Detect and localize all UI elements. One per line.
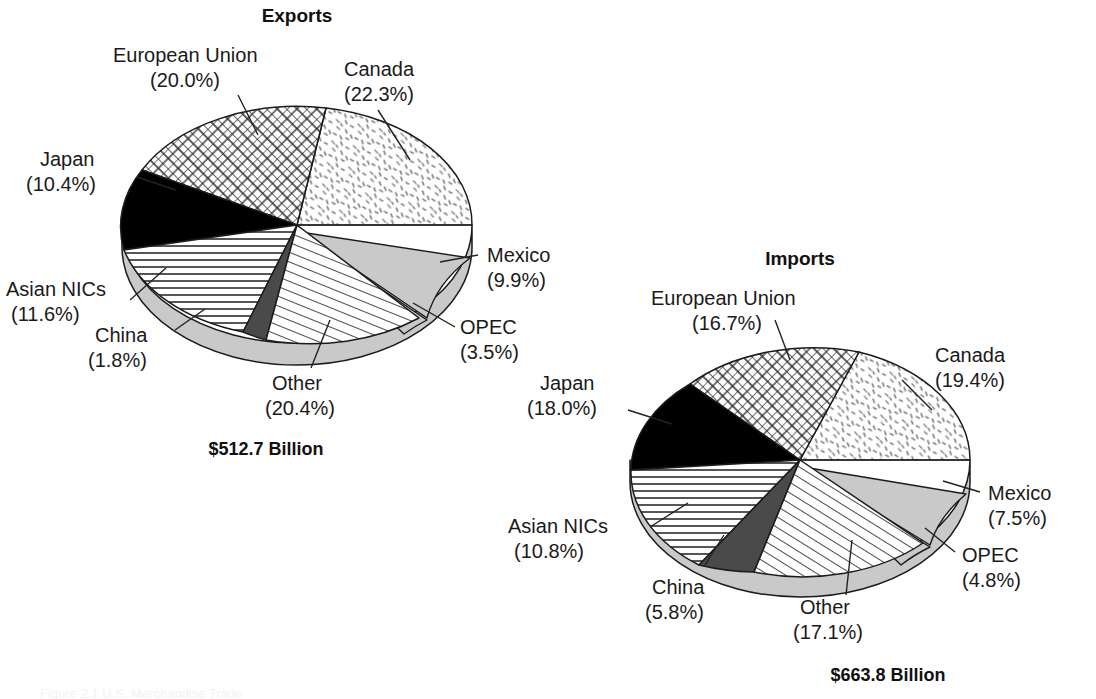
exports-canada-label: Canada bbox=[344, 58, 415, 80]
exports-total: $512.7 Billion bbox=[208, 439, 323, 459]
leader-mexico-2 bbox=[943, 481, 980, 492]
imports-japan-pct: (18.0%) bbox=[527, 397, 597, 419]
imports-japan-label: Japan bbox=[540, 372, 595, 394]
exports-canada-slice bbox=[297, 108, 472, 225]
imports-title: Imports bbox=[765, 248, 835, 269]
figure-canvas: Exports European Union (20.0%) Canada (2… bbox=[0, 0, 1096, 699]
exports-title: Exports bbox=[262, 5, 333, 26]
cropped-caption: Figure 2.1 U.S. Merchandise Trade bbox=[0, 687, 1096, 699]
imports-china-label: China bbox=[652, 576, 705, 598]
imports-canada-label: Canada bbox=[935, 344, 1006, 366]
exports-nics-pct: (11.6%) bbox=[11, 303, 80, 325]
imports-canada-pct: (19.4%) bbox=[935, 369, 1005, 391]
exports-china-label: China bbox=[95, 324, 148, 346]
imports-other-label: Other bbox=[800, 596, 850, 618]
exports-japan-pct: (10.4%) bbox=[26, 173, 96, 195]
imports-eu-pct: (16.7%) bbox=[692, 312, 762, 334]
trade-pie-figure: Exports European Union (20.0%) Canada (2… bbox=[0, 0, 1096, 699]
exports-opec-pct: (3.5%) bbox=[460, 341, 519, 363]
exports-opec-label: OPEC bbox=[460, 316, 517, 338]
imports-eu-label: European Union bbox=[651, 287, 796, 309]
imports-pie-face bbox=[631, 348, 970, 577]
exports-mexico-label: Mexico bbox=[487, 244, 550, 266]
exports-other-label: Other bbox=[272, 372, 322, 394]
imports-mexico-label: Mexico bbox=[988, 482, 1051, 504]
exports-japan-label: Japan bbox=[40, 148, 95, 170]
imports-nics-label: Asian NICs bbox=[508, 515, 608, 537]
exports-mexico-pct: (9.9%) bbox=[487, 269, 546, 291]
imports-mexico-pct: (7.5%) bbox=[988, 507, 1047, 529]
exports-eu-pct: (20.0%) bbox=[150, 69, 220, 91]
exports-canada-pct: (22.3%) bbox=[344, 83, 414, 105]
imports-total: $663.8 Billion bbox=[830, 665, 945, 685]
imports-other-pct: (17.1%) bbox=[793, 621, 863, 643]
exports-eu-label: European Union bbox=[113, 44, 258, 66]
exports-chart: Exports European Union (20.0%) Canada (2… bbox=[6, 5, 550, 459]
exports-other-pct: (20.4%) bbox=[265, 397, 335, 419]
imports-chart: Imports European Union (16.7%) Canada (1… bbox=[508, 248, 1051, 685]
exports-china-pct: (1.8%) bbox=[88, 349, 147, 371]
imports-china-pct: (5.8%) bbox=[645, 601, 704, 623]
cropped-caption-strip: Figure 2.1 U.S. Merchandise Trade bbox=[0, 687, 1096, 699]
exports-nics-label: Asian NICs bbox=[6, 278, 106, 300]
imports-nics-pct: (10.8%) bbox=[514, 540, 584, 562]
imports-opec-pct: (4.8%) bbox=[962, 569, 1021, 591]
imports-opec-label: OPEC bbox=[962, 544, 1019, 566]
